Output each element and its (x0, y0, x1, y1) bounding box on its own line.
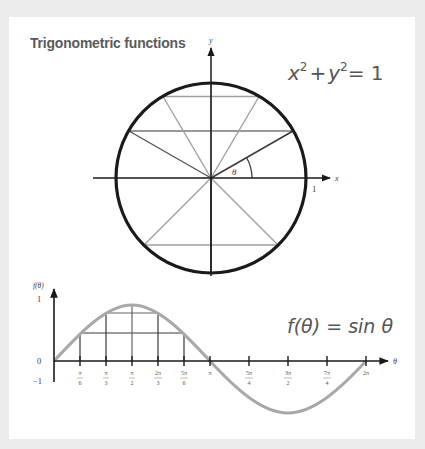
x-tick-labels: π 6 π 3 π 2 2π 3 5π 6 π 5π 4 3π 2 7π 4 (77, 370, 369, 386)
y-axis-label: y (208, 36, 213, 45)
svg-text:3π: 3π (285, 370, 291, 376)
sine-graph: f(θ) θ 1 0 −1 π 6 π 3 π 2 2π 3 5π 6 π 5π… (33, 281, 397, 413)
y-tick-0: 0 (37, 356, 41, 366)
angle-arc (247, 158, 253, 179)
svg-text:π: π (130, 370, 133, 376)
svg-text:7π: 7π (324, 370, 330, 376)
circle-equation: x2+y2= 1 (287, 60, 384, 85)
svg-text:π: π (208, 370, 211, 376)
radius-225deg (144, 178, 211, 245)
theta-axis-label: θ (393, 357, 397, 366)
radius-150deg (129, 131, 211, 178)
svg-text:2π: 2π (363, 370, 369, 376)
y-tick-1: 1 (37, 294, 41, 304)
svg-text:3: 3 (157, 380, 160, 386)
svg-text:3: 3 (105, 380, 108, 386)
svg-text:π: π (78, 370, 81, 376)
eq-equals: = 1 (348, 61, 384, 85)
sine-equation: f(θ) = sin θ (287, 315, 393, 337)
svg-text:6: 6 (79, 380, 82, 386)
svg-text:6: 6 (183, 380, 186, 386)
angle-label: θ (232, 167, 237, 177)
radius-315deg (211, 178, 278, 245)
svg-text:2: 2 (287, 380, 290, 386)
radius-label: 1 (312, 184, 317, 194)
radius-60deg (211, 97, 259, 179)
x-axis-label: x (334, 174, 339, 183)
svg-text:5π: 5π (246, 370, 252, 376)
svg-text:x2+y2= 1: x2+y2= 1 (287, 60, 384, 85)
diagram-canvas: θ x y 1 x2+y2= 1 (0, 0, 425, 449)
svg-text:4: 4 (248, 380, 251, 386)
y-tick-neg1: −1 (33, 376, 42, 386)
sine-grid (80, 305, 184, 361)
eq-x: x (287, 61, 300, 85)
eq-plus: + (309, 61, 326, 85)
svg-text:5π: 5π (181, 370, 187, 376)
svg-text:2π: 2π (155, 370, 161, 376)
f-axis-label: f(θ) (33, 281, 44, 290)
eq-x-exp: 2 (300, 60, 308, 74)
svg-text:π: π (104, 370, 107, 376)
eq-y-exp: 2 (340, 60, 348, 74)
svg-text:4: 4 (326, 380, 329, 386)
radius-120deg (163, 97, 211, 179)
svg-text:2: 2 (131, 380, 134, 386)
